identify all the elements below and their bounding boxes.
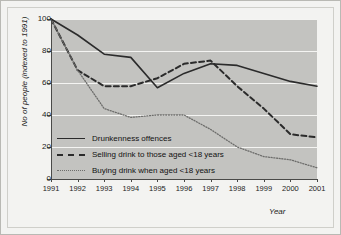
x-tick-label: 1996 [169, 184, 199, 193]
y-tick-label: 80 [25, 47, 51, 55]
x-tick [78, 179, 79, 182]
x-tick [131, 179, 132, 182]
x-tick [51, 179, 52, 182]
x-tick-label: 1994 [116, 184, 146, 193]
x-axis-title: Year [269, 207, 285, 216]
x-tick [264, 179, 265, 182]
series-line-solid [51, 19, 317, 88]
y-tick-label: 0 [25, 175, 51, 183]
x-tick-label: 1993 [89, 184, 119, 193]
x-tick [157, 179, 158, 182]
x-tick [211, 179, 212, 182]
y-tick-label: 60 [25, 79, 51, 87]
x-tick [290, 179, 291, 182]
legend-label: Buying drink when aged <18 years [92, 166, 215, 176]
chart-legend: Drunkenness offences Selling drink to th… [57, 131, 267, 179]
x-tick-label: 1997 [196, 184, 226, 193]
x-tick [184, 179, 185, 182]
x-tick-label: 2001 [302, 184, 332, 193]
legend-line-dotted-icon [57, 166, 85, 176]
legend-line-dashed-icon [57, 150, 85, 160]
x-tick-label: 1991 [36, 184, 66, 193]
chart-figure: No of people (indexed to 1991) 020406080… [0, 0, 341, 235]
legend-line-solid-icon [57, 134, 85, 144]
x-tick [237, 179, 238, 182]
x-tick-label: 1998 [222, 184, 252, 193]
legend-item-drunkenness: Drunkenness offences [57, 131, 267, 147]
x-tick-label: 1992 [63, 184, 93, 193]
y-tick-label: 40 [25, 111, 51, 119]
x-tick-label: 1995 [142, 184, 172, 193]
y-tick-label: 100 [25, 15, 51, 23]
x-tick-label: 1999 [249, 184, 279, 193]
legend-label: Drunkenness offences [92, 134, 171, 144]
y-axis-line [51, 19, 52, 179]
legend-item-selling: Selling drink to those aged <18 years [57, 147, 267, 163]
x-tick [317, 179, 318, 182]
legend-label: Selling drink to those aged <18 years [92, 150, 224, 160]
x-tick [104, 179, 105, 182]
legend-item-buying: Buying drink when aged <18 years [57, 163, 267, 179]
x-tick-label: 2000 [275, 184, 305, 193]
y-tick-label: 20 [25, 143, 51, 151]
